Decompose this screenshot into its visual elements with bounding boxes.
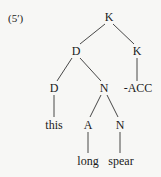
branch-n-a [90,95,101,117]
leaf-this: this [45,119,62,131]
node-d-terminal: D [50,82,59,94]
node-n: N [100,82,109,94]
branch-k-d [80,24,105,44]
node-k-root: K [105,11,114,23]
branch-k-k [113,24,134,44]
node-k: K [133,45,142,57]
branch-d-n [80,58,101,81]
leaf-long: long [77,155,98,167]
leaf-spear: spear [108,155,133,167]
node-n-terminal: N [116,119,125,131]
node-a: A [84,119,93,131]
branch-d-d [57,58,72,81]
branch-n-n [107,95,118,117]
node-acc: -ACC [124,82,153,94]
node-d: D [72,45,81,57]
